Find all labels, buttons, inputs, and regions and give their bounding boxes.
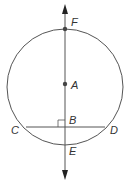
label-e: E bbox=[69, 145, 77, 157]
right-angle-mark bbox=[58, 120, 65, 127]
label-a: A bbox=[70, 79, 78, 91]
geometry-diagram: F A B C D E bbox=[0, 0, 131, 183]
arrow-up-icon bbox=[62, 4, 68, 14]
point-a bbox=[63, 82, 67, 86]
label-b: B bbox=[69, 114, 76, 126]
point-f bbox=[63, 27, 67, 31]
label-d: D bbox=[110, 124, 118, 136]
label-f: F bbox=[71, 16, 79, 28]
label-c: C bbox=[11, 124, 19, 136]
arrow-down-icon bbox=[62, 170, 68, 180]
